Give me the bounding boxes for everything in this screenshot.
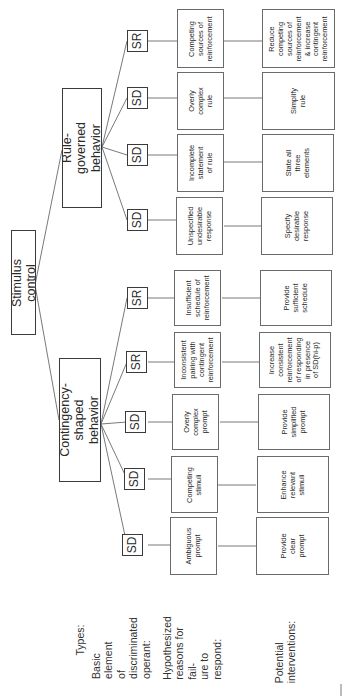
contingency-shaped-label: Contingency- shaped behavior [59,383,101,457]
reason-label: Incomplete statement of rule [187,145,214,181]
reason-label: Inconsistent pairing with contingent rei… [180,337,216,382]
element-tag: SD [127,87,148,109]
intervention-label: Enhance relevant stimuli [280,470,307,499]
element-label: SR [131,33,145,50]
intervention-label: Provide clear prompt [279,533,306,558]
intervention-label: State all three elements [285,148,312,178]
intervention-label: Simplify rule [290,88,308,114]
rule-governed-label: Rule- governed behavior [62,122,102,174]
element-tag: SD [127,209,148,231]
intervention-box: Increase consistent reinforcement of res… [259,332,331,388]
types-label: Types: [74,625,86,656]
reason-box: Inconsistent pairing with contingent rei… [174,332,221,388]
intervention-box: State all three elements [262,134,334,192]
reason-label: Competing sources of reinforcement [187,16,214,61]
intervention-box: Provide simplified prompt [258,394,330,450]
reason-label: Competing stimuli [186,467,204,503]
reason-label: Overly complex prompt [182,408,209,436]
reason-box: Overly complex rule [177,72,224,130]
element-label: SD [131,147,145,164]
intervention-label: Specify desirable response [284,211,311,241]
element-tag: SD [122,534,143,556]
intervention-box: Enhance relevant stimuli [257,456,329,513]
element-tag: SR [127,30,148,52]
reason-box: Insufficient schedule of reinforcement [174,270,221,326]
intervention-box: Provide sufficient schedule [260,270,332,326]
element-tag: SD [127,144,148,166]
intervention-box: Reduce competing sources of reinforcemen… [262,9,335,68]
intervention-box: Specify desirable response [261,197,333,255]
intervention-label: Provide sufficient schedule [283,283,310,313]
reason-label: Ambiguous prompt [185,528,203,565]
reason-box: Overly complex prompt [172,394,219,450]
intervention-label: Increase consistent reinforcement of res… [268,337,321,382]
element-tag: SD [125,411,146,433]
reason-box: Incomplete statement of rule [177,134,224,192]
element-tag: SR [126,351,147,373]
reason-label: Unspecified undesirable response [186,207,213,246]
reasons-label: Hypothesized reasons for fail- ure to re… [161,616,223,680]
element-label: SD [131,90,145,107]
element-label: SD [126,537,140,554]
intervention-label: Provide simplified prompt [281,407,308,438]
basic-element-label: Basic element of discriminated operant: [90,617,152,679]
row-label-types: Types: [68,600,92,680]
intervention-label: Reduce competing sources of reinforcemen… [267,16,329,61]
row-label-basic-element: Basic element of discriminated operant: [104,606,138,690]
rule-governed-box: Rule- governed behavior [62,88,102,208]
stimulus-control-label: Stimulus control [11,259,36,307]
reason-label: Insufficient schedule of reinforcement [184,275,211,320]
reason-box: Competing sources of reinforcement [177,9,224,68]
interventions-label: Potential interventions: [273,621,298,683]
element-label: SD [128,471,142,488]
reason-box: Unspecified undesirable response [176,197,223,255]
intervention-box: Simplify rule [262,72,335,130]
element-label: SR [130,354,144,371]
reason-label: Overly complex rule [187,87,214,115]
element-label: SD [129,414,143,431]
intervention-box: Provide clear prompt [256,517,329,575]
element-tag: SR [127,287,148,309]
reason-box: Competing stimuli [171,456,218,513]
element-label: SR [131,290,145,307]
contingency-shaped-box: Contingency- shaped behavior [59,358,101,482]
row-label-interventions: Potential interventions: [270,612,300,692]
element-tag: SD [124,468,145,490]
element-label: SD [131,212,145,229]
stimulus-control-box: Stimulus control [11,230,36,335]
row-label-reasons: Hypothesized reasons for fail- ure to re… [170,606,214,690]
reason-box: Ambiguous prompt [170,517,217,575]
